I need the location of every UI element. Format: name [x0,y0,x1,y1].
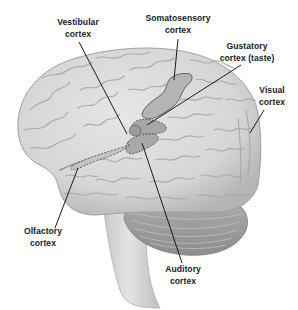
vestibular-region [129,125,141,136]
gustatory-label-line2: cortex (taste) [220,52,275,64]
vestibular-label-line1: Vestibular [57,16,99,28]
visual-label-line2: cortex [259,96,285,108]
gustatory-cortex-label: Gustatory cortex (taste) [220,40,275,64]
gustatory-label-line1: Gustatory [220,40,275,52]
somatosensory-cortex-label: Somatosensory cortex [145,12,210,36]
vestibular-label-line2: cortex [57,28,99,40]
vestibular-cortex-label: Vestibular cortex [57,16,99,40]
somatosensory-label-line1: Somatosensory [145,12,210,24]
visual-cortex-label: Visual cortex [259,84,285,108]
somatosensory-label-line2: cortex [145,24,210,36]
brain-sensory-cortex-diagram: Vestibular cortex Somatosensory cortex G… [0,0,298,310]
olfactory-label-line1: Olfactory [24,225,62,237]
olfactory-cortex-label: Olfactory cortex [24,225,62,249]
visual-label-line1: Visual [259,84,285,96]
auditory-label-line2: cortex [165,275,201,287]
auditory-label-line1: Auditory [165,263,201,275]
auditory-cortex-label: Auditory cortex [165,263,201,287]
olfactory-label-line2: cortex [24,237,62,249]
